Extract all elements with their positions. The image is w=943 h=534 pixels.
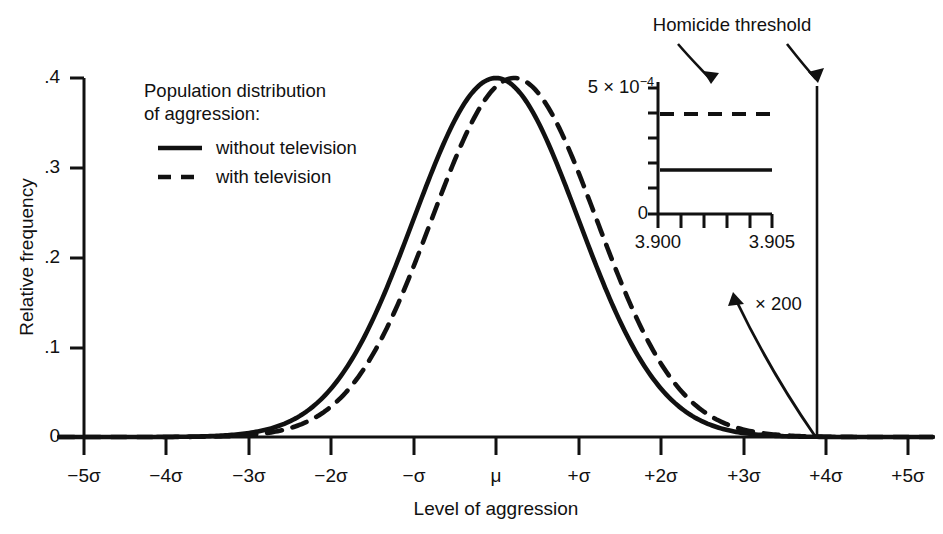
y-tick-label: .4 — [20, 66, 60, 88]
x-tick-label: +2σ — [631, 465, 691, 487]
inset-y-top-label: 5 × 10−4 — [536, 76, 654, 97]
chart-canvas — [0, 0, 943, 534]
threshold-arrow-right — [787, 44, 824, 83]
x-tick-label: +4σ — [796, 465, 856, 487]
y-tick-marks — [70, 78, 84, 437]
x-tick-label: +3σ — [714, 465, 774, 487]
inset-y-top-exponent: −4 — [640, 75, 654, 89]
x-axis-title: Level of aggression — [336, 498, 656, 520]
curve-with-television — [59, 78, 932, 437]
x-tick-label: +σ — [549, 465, 609, 487]
x-tick-label: −2σ — [301, 465, 361, 487]
y-tick-label: .1 — [20, 336, 60, 358]
legend-title-line-1: Population distribution — [144, 80, 326, 101]
legend-title-line-2: of aggression: — [144, 103, 260, 124]
inset-x-tick-marks — [658, 214, 772, 228]
x-tick-marks — [84, 437, 908, 455]
inset-x-label-start: 3.900 — [618, 231, 698, 252]
inset-y-bottom-label: 0 — [620, 202, 648, 223]
y-tick-label: 0 — [20, 425, 60, 447]
legend-item-without-television: without television — [216, 137, 357, 158]
y-tick-label: .3 — [20, 156, 60, 178]
x-tick-label: +5σ — [878, 465, 938, 487]
figure-normal-distribution-aggression: Relative frequency .4 .3 .2 .1 0 −5σ −4σ… — [0, 0, 943, 534]
y-tick-label: .2 — [20, 246, 60, 268]
inset-x-label-end: 3.905 — [732, 231, 812, 252]
homicide-threshold-label: Homicide threshold — [617, 14, 847, 35]
threshold-arrow-left — [678, 44, 719, 84]
legend-item-with-television: with television — [216, 166, 331, 187]
x-tick-label: μ — [466, 465, 526, 487]
x-tick-label: −5σ — [54, 465, 114, 487]
x-tick-label: −3σ — [219, 465, 279, 487]
x-tick-label: −4σ — [136, 465, 196, 487]
x-tick-label: −σ — [384, 465, 444, 487]
curve-without-television-precise — [59, 78, 932, 437]
magnification-label: × 200 — [755, 293, 802, 314]
inset-y-top-mantissa: 5 × 10 — [588, 76, 640, 97]
